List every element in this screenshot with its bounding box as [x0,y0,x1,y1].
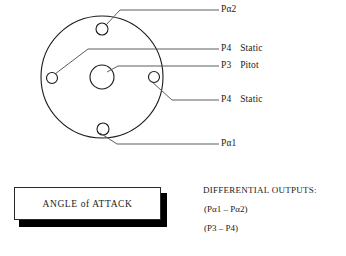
callout-p3-pitot-code: P3 [221,60,231,71]
callout-p3-pitot-qualifier: Pitot [240,60,258,71]
differential-outputs-title: DIFFERENTIAL OUTPUTS: [203,185,343,195]
aoa-box-label: ANGLE of ATTACK [42,199,132,209]
figure-root: Pα2 P4Static P3Pitot P4Static Pα1 ANGLE … [0,0,346,256]
callout-p4-static-lower: P4Static [221,94,262,105]
callout-palpha1-code: Pα1 [221,138,236,149]
differential-outputs-block: DIFFERENTIAL OUTPUTS: (Pα1 – Pα2) (P3 – … [203,185,343,242]
callout-palpha2: Pα2 [221,4,245,15]
leader-line-p4-static-upper [55,49,219,74]
callout-p3-pitot: P3Pitot [221,60,259,71]
callout-p4-static-upper: P4Static [221,43,262,54]
differential-output-expression-2: (P3 – P4) [203,223,343,233]
aoa-box: ANGLE of ATTACK [14,187,161,220]
leader-line-palpha1 [100,133,219,144]
callout-p4-static-lower-qualifier: Static [240,94,262,105]
callout-palpha2-code: Pα2 [221,4,236,15]
leader-line-palpha2 [106,10,219,25]
port-center-pitot [90,65,114,89]
differential-output-expression-1: (Pα1 – Pα2) [203,204,343,214]
callout-p4-static-upper-code: P4 [221,43,231,54]
port-bottom-palpha1 [97,123,109,135]
leader-line-p4-static-lower [151,81,219,100]
callout-p4-static-lower-code: P4 [221,94,231,105]
port-left-p4-static [47,73,58,84]
callout-p4-static-upper-qualifier: Static [240,43,262,54]
port-right-p4-static [149,72,160,83]
callout-palpha1: Pα1 [221,138,245,149]
